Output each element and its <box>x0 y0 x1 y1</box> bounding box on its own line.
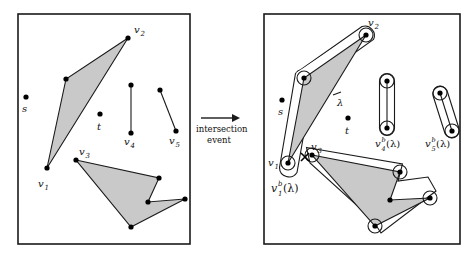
caption-line-2: event <box>196 135 242 146</box>
vertex-v5 <box>173 128 178 133</box>
label-v3-sub: 3 <box>318 147 323 155</box>
label-lambda: λ <box>336 97 343 108</box>
label-s-right: s <box>278 106 283 117</box>
vertex-seg4-top <box>128 82 133 87</box>
label-v4b-arg: (λ) <box>386 138 400 149</box>
intersection-event-caption: intersection event <box>196 124 242 146</box>
label-v1b-base: v <box>271 182 278 195</box>
vertex-t <box>345 115 350 120</box>
vertex-lower-right <box>156 175 161 180</box>
before-panel: s t v 1 v 2 v 3 v 4 v 5 <box>18 14 190 244</box>
vertex-s <box>279 97 284 102</box>
label-v5b-arg: (λ) <box>436 138 450 149</box>
label-v1-base: v <box>38 178 44 189</box>
label-v4b-base: v <box>375 138 381 149</box>
vertex-v1 <box>44 165 49 170</box>
vertex-upper-mid <box>63 76 68 81</box>
vertex-s <box>23 94 28 99</box>
vertex-seg5-top <box>157 87 162 92</box>
vertex-lower-notch <box>145 199 150 204</box>
label-v1b-sub: 1 <box>278 190 282 198</box>
label-v1-sub: 1 <box>275 163 279 171</box>
vertex-lower-bottom <box>128 224 133 229</box>
label-v5-sub: 5 <box>176 141 181 149</box>
label-v1b-arg: (λ) <box>283 182 299 195</box>
label-v5-base: v <box>169 135 175 146</box>
label-v2-base: v <box>134 24 140 35</box>
label-v5b-base: v <box>425 138 431 149</box>
label-v2-base: v <box>368 17 374 28</box>
vertex-t <box>97 111 102 116</box>
label-v2-sub: 2 <box>374 23 380 31</box>
vertex-v2 <box>125 35 130 40</box>
label-v2-sub: 2 <box>140 30 146 38</box>
label-v1-base: v <box>268 157 274 168</box>
vertex-v3 <box>73 157 78 162</box>
label-v4b-sub: 4 <box>381 145 386 153</box>
label-v4-base: v <box>124 136 130 147</box>
vertex-v4 <box>128 130 133 135</box>
label-s-left: s <box>22 103 27 114</box>
after-panel: s t v 1 v 2 v 3 λ v 1 b (λ) v 4 b (λ) <box>264 14 460 244</box>
label-v3-base: v <box>311 141 317 152</box>
label-v1-sub: 1 <box>45 184 49 192</box>
caption-line-1: intersection <box>196 124 242 135</box>
label-v3-base: v <box>79 146 85 157</box>
vertex-lower-notch <box>387 197 392 202</box>
label-v4-sub: 4 <box>130 142 135 150</box>
vertex-lower-far-right <box>182 196 187 201</box>
label-v3-sub: 3 <box>86 152 91 160</box>
